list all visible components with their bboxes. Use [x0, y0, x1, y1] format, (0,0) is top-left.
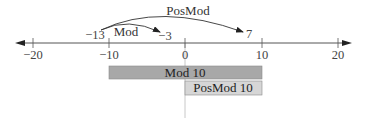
tick-label-10: 10 [256, 48, 269, 62]
point-label-minus-13: −13 [85, 28, 105, 42]
number-line-axis: −20 −10 0 10 20 [15, 38, 352, 62]
mod-arc-label: Mod [114, 24, 139, 39]
tick-label-20: 20 [332, 48, 345, 62]
posmod-10-range: PosMod 10 [185, 80, 262, 95]
posmod-arc-label: PosMod [166, 3, 210, 18]
tick-label-minus-20: −20 [23, 48, 43, 62]
tick-label-0: 0 [182, 48, 188, 62]
point-label-7: 7 [246, 27, 252, 41]
left-arrow-icon [15, 40, 25, 46]
right-arrow-icon [342, 40, 352, 46]
posmod-10-label: PosMod 10 [193, 80, 253, 95]
tick-label-minus-10: −10 [99, 48, 119, 62]
number-line-diagram: Mod 10 PosMod 10 −20 −10 0 10 20 −13 −3 … [0, 0, 380, 123]
point-label-minus-3: −3 [158, 29, 171, 43]
mod-10-label: Mod 10 [165, 65, 206, 80]
mod-10-range: Mod 10 [109, 65, 262, 80]
